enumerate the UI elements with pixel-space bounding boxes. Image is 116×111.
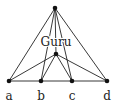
- node-label-a: a: [5, 89, 12, 103]
- node-label-d: d: [103, 89, 111, 103]
- node-c: [70, 79, 75, 84]
- node-a: [7, 79, 12, 84]
- guru-label: Guru: [41, 35, 72, 49]
- guru-graph-diagram: Guruabcd Guru: [0, 0, 116, 111]
- node-label-b: b: [37, 89, 45, 103]
- node-mid: [54, 52, 59, 57]
- node-b: [39, 79, 44, 84]
- graph-canvas: Guruabcd: [0, 0, 116, 111]
- node-top: [53, 6, 58, 11]
- node-label-c: c: [69, 89, 76, 103]
- node-d: [105, 79, 110, 84]
